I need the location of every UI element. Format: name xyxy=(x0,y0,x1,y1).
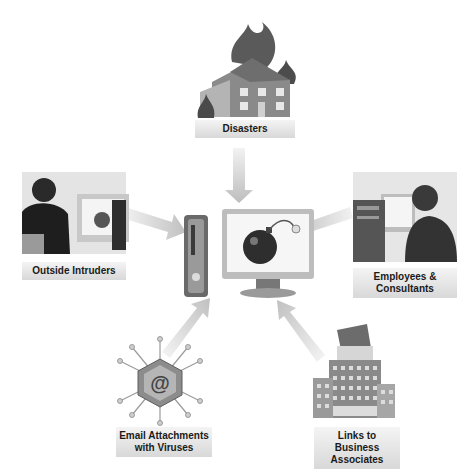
label-business-associates: Links to Business Associates xyxy=(314,427,400,469)
threat-diagram: Disasters Outside Intruders Employees & xyxy=(0,0,476,473)
label-email-attachments: Email Attachments with Viruses xyxy=(116,427,212,457)
office-building-icon xyxy=(307,320,399,418)
email-virus-icon: @ xyxy=(112,335,208,427)
computer-with-bomb-icon xyxy=(180,205,316,300)
email-attachments-node: @ xyxy=(112,335,208,427)
employee-at-computer-icon xyxy=(353,172,457,262)
svg-text:@: @ xyxy=(150,372,170,394)
intruder-at-computer-icon xyxy=(22,172,126,254)
employees-consultants-node xyxy=(353,172,457,262)
label-disasters: Disasters xyxy=(195,120,295,138)
label-employees-consultants: Employees & Consultants xyxy=(353,268,457,298)
burning-house-icon xyxy=(190,22,300,122)
label-outside-intruders: Outside Intruders xyxy=(22,262,126,280)
central-computer xyxy=(180,205,316,300)
business-associates-node xyxy=(307,320,399,418)
outside-intruders-node xyxy=(22,172,126,254)
